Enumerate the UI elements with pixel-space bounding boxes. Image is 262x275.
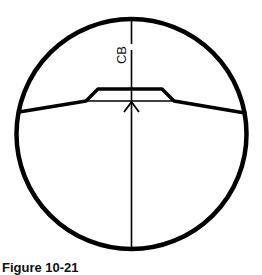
figure-caption: Figure 10-21 (2, 260, 79, 275)
cb-label: CB (113, 45, 131, 65)
